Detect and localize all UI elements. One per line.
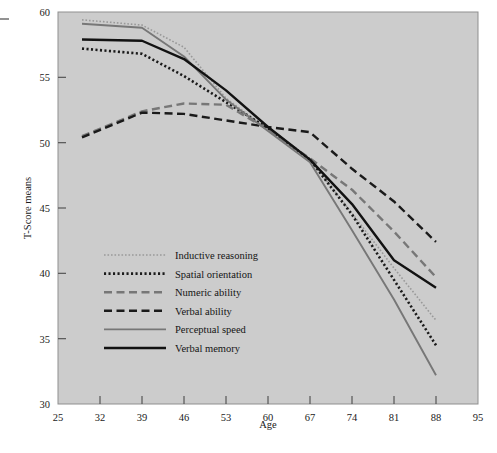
y-axis-tick-label: 55 [40,72,51,83]
x-axis-tick-label: 81 [389,412,400,423]
legend-label-spatial-orientation: Spatial orientation [175,269,253,280]
x-axis-tick-label: 39 [137,412,148,423]
x-axis-title: Age [259,419,277,430]
x-axis-tick-label: 53 [221,412,232,423]
x-axis-tick-label: 67 [305,412,316,423]
plot-area-background [58,12,478,404]
y-axis-tick-label: 35 [40,334,51,345]
y-axis-tick-label: 50 [40,138,51,149]
x-axis-tick-label: 25 [53,412,64,423]
legend-label-verbal-ability: Verbal ability [175,306,233,317]
y-axis-tick-label: 60 [40,7,51,18]
x-axis-tick-label: 88 [431,412,442,423]
x-axis-tick-label: 95 [473,412,484,423]
y-axis-tick-label: 45 [40,203,51,214]
y-axis-tick-label: 30 [40,399,51,410]
legend-label-inductive-reasoning: Inductive reasoning [175,250,259,261]
y-axis-title: T-Score means [22,177,33,239]
legend-label-perceptual-speed: Perceptual speed [175,324,247,335]
chart-figure: 30354045505560 2532394653606774818895 T-… [0,0,497,453]
x-axis-tick-label: 46 [179,412,190,423]
legend-label-verbal-memory: Verbal memory [175,343,241,354]
y-axis-tick-label: 40 [40,268,51,279]
x-axis-tick-label: 32 [95,412,106,423]
legend-label-numeric-ability: Numeric ability [175,287,242,298]
x-axis-tick-label: 74 [347,412,358,423]
line-chart: 30354045505560 2532394653606774818895 T-… [0,0,497,453]
